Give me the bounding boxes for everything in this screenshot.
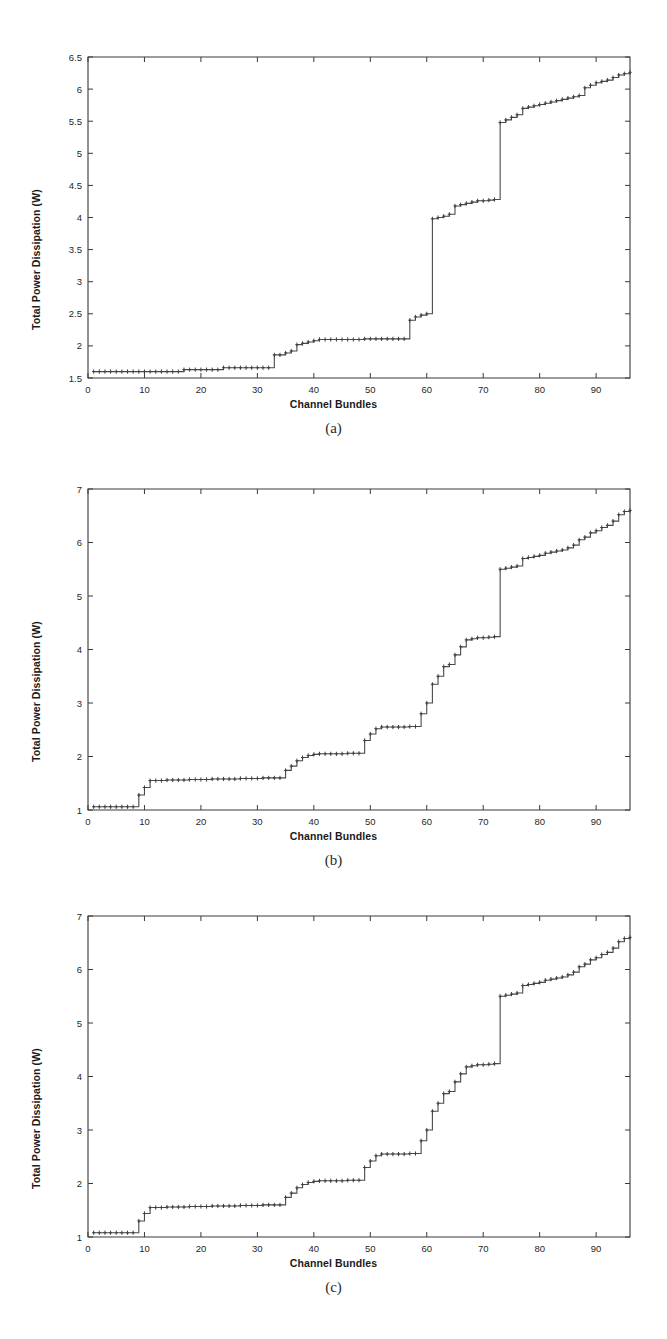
plot-area-b: 01020304050607080901234567	[0, 432, 667, 812]
y-tick-label: 4.5	[69, 180, 82, 191]
axis-frame	[88, 57, 630, 378]
x-tick-label: 90	[591, 384, 602, 395]
x-tick-label: 60	[421, 1243, 432, 1254]
y-axis-label-c: Total Power Dissipation (W)	[30, 1048, 42, 1189]
y-tick-label: 6	[77, 964, 82, 975]
x-tick-label: 20	[196, 1243, 207, 1254]
panel-caption-c: (c)	[0, 1279, 667, 1296]
data-series-line	[94, 937, 630, 1232]
y-tick-label: 2	[77, 1178, 82, 1189]
y-tick-label: 3	[77, 1125, 82, 1136]
x-tick-label: 10	[139, 1243, 150, 1254]
axis-frame	[88, 489, 630, 810]
chart-svg-b: 01020304050607080901234567	[0, 432, 667, 832]
x-tick-label: 90	[591, 816, 602, 827]
y-tick-label: 6	[77, 537, 82, 548]
y-tick-label: 1.5	[69, 373, 82, 384]
subfigure-b: 01020304050607080901234567 Total Power D…	[0, 432, 667, 887]
y-axis-label-b: Total Power Dissipation (W)	[30, 621, 42, 762]
x-tick-label: 90	[591, 1243, 602, 1254]
x-tick-label: 0	[85, 1243, 90, 1254]
axis-frame	[88, 916, 630, 1237]
x-tick-label: 30	[252, 1243, 263, 1254]
x-axis-label-b: Channel Bundles	[0, 830, 667, 842]
y-tick-label: 4	[77, 212, 82, 223]
y-tick-label: 2	[77, 751, 82, 762]
x-tick-label: 70	[478, 384, 489, 395]
y-tick-label: 2.5	[69, 308, 82, 319]
x-tick-label: 40	[309, 384, 320, 395]
y-tick-label: 3.5	[69, 244, 82, 255]
y-tick-label: 3	[77, 698, 82, 709]
x-tick-label: 40	[309, 816, 320, 827]
data-series-line	[94, 72, 630, 371]
plot-area-c: 01020304050607080901234567	[0, 859, 667, 1239]
y-tick-label: 4	[77, 644, 82, 655]
x-tick-label: 0	[85, 816, 90, 827]
x-tick-label: 50	[365, 1243, 376, 1254]
x-tick-label: 70	[478, 816, 489, 827]
data-point-markers	[92, 70, 632, 373]
x-tick-label: 40	[309, 1243, 320, 1254]
chart-svg-a: 01020304050607080901.522.533.544.555.566…	[0, 0, 667, 400]
x-axis-label-c: Channel Bundles	[0, 1257, 667, 1269]
y-tick-label: 5	[77, 1018, 82, 1029]
plot-area-a: 01020304050607080901.522.533.544.555.566…	[0, 0, 667, 380]
x-tick-label: 60	[421, 384, 432, 395]
y-tick-label: 3	[77, 276, 82, 287]
y-tick-label: 7	[77, 911, 82, 922]
data-series-line	[94, 510, 630, 806]
x-tick-label: 80	[534, 384, 545, 395]
subfigure-a: 01020304050607080901.522.533.544.555.566…	[0, 0, 667, 455]
x-tick-label: 50	[365, 384, 376, 395]
x-tick-label: 80	[534, 1243, 545, 1254]
chart-svg-c: 01020304050607080901234567	[0, 859, 667, 1259]
figure-three-panel-power-dissipation: 01020304050607080901.522.533.544.555.566…	[0, 0, 667, 1339]
y-tick-label: 4	[77, 1071, 82, 1082]
x-tick-label: 10	[139, 384, 150, 395]
y-tick-label: 6.5	[69, 52, 82, 63]
x-tick-label: 30	[252, 816, 263, 827]
y-tick-label: 6	[77, 84, 82, 95]
y-tick-label: 2	[77, 340, 82, 351]
y-tick-label: 5	[77, 148, 82, 159]
x-tick-label: 20	[196, 816, 207, 827]
x-tick-label: 30	[252, 384, 263, 395]
y-tick-label: 1	[77, 1232, 82, 1243]
x-tick-label: 80	[534, 816, 545, 827]
x-tick-label: 20	[196, 384, 207, 395]
x-tick-label: 70	[478, 1243, 489, 1254]
x-tick-label: 50	[365, 816, 376, 827]
data-point-markers	[92, 935, 632, 1235]
data-point-markers	[92, 508, 632, 809]
x-axis-label-a: Channel Bundles	[0, 398, 667, 410]
x-tick-label: 0	[85, 384, 90, 395]
x-tick-label: 10	[139, 816, 150, 827]
y-tick-label: 7	[77, 484, 82, 495]
y-tick-label: 5.5	[69, 116, 82, 127]
subfigure-c: 01020304050607080901234567 Total Power D…	[0, 859, 667, 1314]
y-tick-label: 5	[77, 591, 82, 602]
y-tick-label: 1	[77, 805, 82, 816]
x-tick-label: 60	[421, 816, 432, 827]
y-axis-label-a: Total Power Dissipation (W)	[30, 189, 42, 330]
